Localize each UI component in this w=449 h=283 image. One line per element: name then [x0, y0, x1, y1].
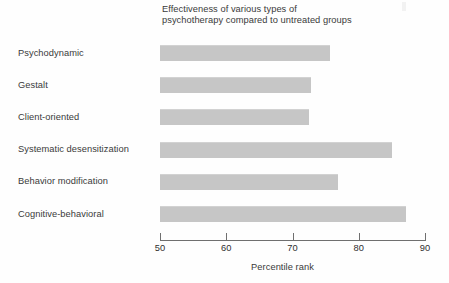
- bar-client-oriented: [160, 109, 309, 125]
- x-axis-tick-90: [425, 233, 426, 241]
- category-label-psychodynamic: Psychodynamic: [18, 48, 158, 58]
- category-label-systematic-desensitization: Systematic desensitization: [18, 144, 158, 154]
- bar-systematic-desensitization: [160, 142, 392, 158]
- x-axis-tick-label-90: 90: [420, 243, 430, 253]
- chart-figure: Effectiveness of various types of psycho…: [0, 0, 449, 283]
- bar-gestalt: [160, 77, 311, 93]
- category-label-behavior-modification: Behavior modification: [18, 176, 158, 186]
- x-axis-tick-label-60: 60: [221, 243, 231, 253]
- bar-cognitive-behavioral: [160, 206, 406, 222]
- bar-psychodynamic: [160, 45, 330, 61]
- x-axis-tick-label-70: 70: [287, 243, 297, 253]
- x-axis-title: Percentile rank: [0, 262, 449, 272]
- bar-behavior-modification: [160, 174, 338, 190]
- category-label-gestalt: Gestalt: [18, 80, 158, 90]
- x-axis-line: [160, 240, 425, 241]
- category-label-cognitive-behavioral: Cognitive-behavioral: [18, 209, 158, 219]
- category-label-client-oriented: Client-oriented: [18, 112, 158, 122]
- x-axis-title-label: Percentile rank: [251, 262, 314, 272]
- x-axis-tick-label-80: 80: [354, 243, 364, 253]
- x-axis-tick-label-50: 50: [155, 243, 165, 253]
